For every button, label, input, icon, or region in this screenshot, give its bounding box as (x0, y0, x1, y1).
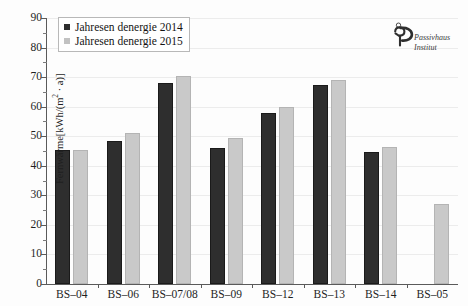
y-axis-tick (41, 77, 47, 78)
bar[interactable] (228, 138, 243, 284)
bar-group (210, 18, 243, 284)
chart-figure: 0102030405060708090 Fernwärme[kWh/(m2 · … (0, 0, 468, 306)
y-axis-tick-label: 60 (2, 101, 42, 112)
y-axis-minor-tick (43, 240, 47, 241)
y-axis-tick (41, 254, 47, 255)
logo-text-line2: Institut (414, 43, 450, 53)
bar-group (313, 18, 346, 284)
y-axis-title-superscript: 2 (51, 94, 60, 98)
passivhaus-glyph-icon (392, 22, 416, 48)
y-axis-tick (41, 166, 47, 167)
x-axis-tick-mark (149, 284, 150, 288)
x-axis-tick-mark (304, 284, 305, 288)
y-axis-tick (41, 284, 47, 285)
y-axis-minor-tick (43, 62, 47, 63)
y-axis-tick (41, 107, 47, 108)
y-axis-title: Fernwärme[kWh/(m2 · a)] (51, 39, 65, 219)
legend-label-2015: Jahresen denergie 2015 (75, 35, 183, 48)
y-axis-minor-tick (43, 269, 47, 270)
chart-legend: Jahresen denergie 2014 Jahresen denergie… (58, 17, 190, 52)
bar-group (158, 18, 191, 284)
chart-title (0, 0, 468, 8)
passivhaus-institut-logo: Passivhaus Institut (386, 20, 460, 62)
bar-group (107, 18, 140, 284)
logo-text-line1: Passivhaus (414, 33, 450, 43)
y-axis-tick-label: 50 (2, 130, 42, 141)
y-axis-tick-label: 10 (2, 248, 42, 259)
y-axis-tick (41, 18, 47, 19)
y-axis-title-main: Fernwärme[kWh/(m (54, 98, 65, 184)
y-axis-minor-tick (43, 151, 47, 152)
legend-swatch-2015 (64, 38, 70, 44)
bar[interactable] (210, 148, 225, 284)
bar[interactable] (279, 107, 294, 284)
bar[interactable] (158, 83, 173, 284)
y-axis-minor-tick (43, 121, 47, 122)
bar[interactable] (261, 113, 276, 284)
y-axis-tick (41, 195, 47, 196)
y-axis-minor-tick (43, 33, 47, 34)
legend-swatch-2014 (64, 24, 70, 30)
x-axis-tick-mark (252, 284, 253, 288)
y-axis-tick-label: 20 (2, 219, 42, 230)
x-axis-tick-mark (355, 284, 356, 288)
x-axis-tick-mark (98, 284, 99, 288)
y-axis-minor-tick (43, 210, 47, 211)
y-axis-tick (41, 48, 47, 49)
bar[interactable] (434, 204, 449, 284)
x-axis-tick-labels: BS–04BS–06BS–07/08BS–09BS–12BS–13BS–14BS… (46, 288, 458, 306)
bar[interactable] (125, 133, 140, 284)
y-axis-minor-tick (43, 92, 47, 93)
y-axis-tick-label: 40 (2, 160, 42, 171)
bar[interactable] (107, 141, 122, 284)
y-axis-tick-label: 30 (2, 189, 42, 200)
x-axis-tick-mark (407, 284, 408, 288)
legend-label-2014: Jahresen denergie 2014 (75, 21, 183, 34)
y-axis-title-tail: · a)] (54, 74, 65, 94)
y-axis-tick-label: 70 (2, 71, 42, 82)
y-axis-tick-labels: 0102030405060708090 (0, 18, 42, 285)
bar[interactable] (176, 76, 191, 284)
bar[interactable] (73, 150, 88, 284)
bar[interactable] (364, 152, 379, 284)
logo-text: Passivhaus Institut (414, 33, 450, 52)
y-axis-tick (41, 136, 47, 137)
bar-group (261, 18, 294, 284)
legend-item-2014[interactable]: Jahresen denergie 2014 (64, 20, 183, 34)
x-axis-tick-mark (201, 284, 202, 288)
y-axis-tick (41, 225, 47, 226)
y-axis-tick-label: 80 (2, 42, 42, 53)
x-axis-tick-label: BS–05 (396, 288, 468, 300)
bar[interactable] (382, 147, 397, 284)
y-axis-minor-tick (43, 181, 47, 182)
y-axis-tick-label: 90 (2, 12, 42, 23)
bar[interactable] (331, 80, 346, 284)
bar[interactable] (313, 85, 328, 285)
legend-item-2015[interactable]: Jahresen denergie 2015 (64, 34, 183, 48)
